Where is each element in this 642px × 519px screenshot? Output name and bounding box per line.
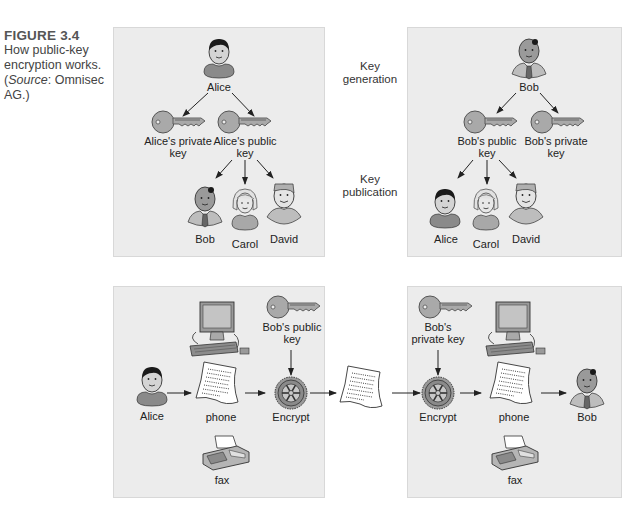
label-bob-public-key: Bob's public key — [262, 321, 322, 345]
encrypted-document-icon — [340, 366, 382, 408]
label-receiver-bob: Bob — [572, 411, 602, 423]
label-carol: Carol — [469, 238, 503, 250]
figure-label: FIGURE 3.4 — [4, 28, 112, 43]
stage-key-publication: Key publication — [336, 173, 404, 199]
label-bob-private-key: Bob's private key — [408, 321, 468, 345]
label-bob-private-key: Bob's private key — [524, 135, 588, 159]
label-carol: Carol — [228, 238, 262, 250]
label-alice: Alice — [430, 233, 462, 245]
panel-bob-receive — [407, 286, 622, 498]
label-channel-phone: phone — [201, 411, 241, 423]
label-sender-alice: Alice — [136, 410, 168, 422]
label-encrypt: Encrypt — [267, 411, 315, 423]
label-alice: Alice — [199, 81, 239, 93]
label-alice-public-key: Alice's public key — [212, 135, 278, 159]
figure-caption: FIGURE 3.4 How public-key encryption wor… — [4, 28, 112, 103]
label-channel-fax: fax — [500, 474, 530, 486]
panel-alice-send — [113, 286, 325, 498]
label-channel-fax: fax — [207, 474, 237, 486]
label-alice-private-key: Alice's private key — [139, 135, 217, 159]
stage-key-generation: Key generation — [340, 60, 400, 86]
label-bob: Bob — [190, 233, 220, 245]
label-channel-phone: phone — [494, 411, 534, 423]
label-bob: Bob — [514, 81, 544, 93]
label-bob-public-key: Bob's public key — [455, 135, 519, 159]
label-david: David — [266, 233, 302, 245]
caption-source: Source — [8, 73, 48, 87]
label-david: David — [508, 233, 544, 245]
label-encrypt: Encrypt — [414, 411, 462, 423]
